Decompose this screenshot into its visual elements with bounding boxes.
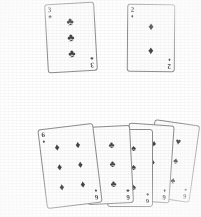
card-fan: ♥ ♠ ♠ 6 ♠ ♦ ♦ ♦ 6 ♦ bbox=[0, 0, 201, 217]
playing-card-6-of-diamonds-left[interactable]: 6 ♦ ♦ ♦ ♦ ♦ ♦ ♦ 6 ♦ bbox=[37, 123, 102, 209]
card-rank: 6 bbox=[95, 193, 99, 200]
card-photo-scene: 3 ♣ ♣ ♣ ♣ 3 ♣ 2 ♦ ♦ ♦ bbox=[0, 0, 201, 217]
card-index-bottom-right: 6 ♦ bbox=[163, 188, 167, 200]
spades-icon: ♠ bbox=[147, 192, 150, 197]
card-pip-grid: ♣ ♣ ♣ bbox=[98, 135, 128, 194]
diamonds-icon: ♦ bbox=[75, 140, 81, 151]
card-index-bottom-right: 6 ♠ bbox=[146, 192, 149, 204]
diamonds-icon: ♦ bbox=[59, 182, 65, 193]
diamonds-icon: ♦ bbox=[80, 179, 86, 190]
diamonds-icon: ♦ bbox=[95, 188, 98, 193]
card-pip-grid: ♦ ♦ ♦ ♦ ♦ ♦ bbox=[46, 134, 95, 199]
clubs-icon: ♣ bbox=[108, 141, 114, 150]
card-index-bottom-right: 6 ♠ bbox=[183, 187, 188, 199]
card-index-bottom-right: 6 ♣ bbox=[126, 188, 130, 200]
clubs-icon: ♣ bbox=[110, 179, 116, 188]
clubs-icon: ♣ bbox=[126, 188, 130, 193]
card-rank: 6 bbox=[146, 197, 149, 204]
diamonds-icon: ♦ bbox=[77, 159, 83, 170]
card-rank: 6 bbox=[127, 193, 131, 200]
card-face: 6 ♦ ♦ ♦ ♦ ♦ ♦ ♦ 6 ♦ bbox=[38, 124, 101, 208]
clubs-icon: ♣ bbox=[109, 160, 115, 169]
card-index-bottom-right: 6 ♦ bbox=[94, 188, 99, 200]
card-rank: 6 bbox=[163, 193, 167, 200]
diamonds-icon: ♦ bbox=[54, 142, 60, 153]
hearts-icon: ♥ bbox=[175, 138, 182, 148]
spades-icon: ♠ bbox=[131, 144, 136, 153]
card-rank: 6 bbox=[183, 192, 187, 199]
spades-icon: ♠ bbox=[173, 157, 179, 167]
diamonds-icon: ♦ bbox=[56, 162, 62, 173]
spades-icon: ♠ bbox=[184, 187, 187, 192]
